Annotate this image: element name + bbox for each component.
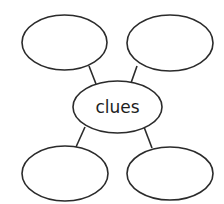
outer-node-top-left	[22, 15, 107, 70]
outer-node-bottom-right	[127, 147, 213, 200]
outer-node-top-right	[127, 15, 213, 71]
outer-node-bottom-left	[22, 146, 108, 201]
center-node-label: clues	[73, 81, 162, 133]
